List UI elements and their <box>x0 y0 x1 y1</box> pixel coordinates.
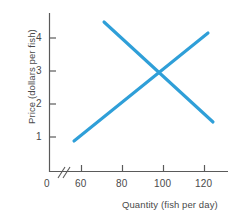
x-axis-title: Quantity (fish per day) <box>122 199 218 210</box>
supply-curve <box>74 33 208 141</box>
x-tick-label-120: 120 <box>195 178 212 189</box>
y-axis-title: Price (dollars per fish) <box>26 29 37 124</box>
demand-curve <box>104 22 213 122</box>
supply-demand-chart: 4 3 2 1 0 60 80 100 120 Quantity (fish p… <box>0 0 240 217</box>
x-tick-label-80: 80 <box>116 178 128 189</box>
x-tick-label-60: 60 <box>75 178 87 189</box>
origin-label: 0 <box>44 178 50 189</box>
x-tick-label-100: 100 <box>154 178 171 189</box>
x-axis-break-icon <box>58 167 70 178</box>
y-tick-label-1: 1 <box>36 131 42 142</box>
